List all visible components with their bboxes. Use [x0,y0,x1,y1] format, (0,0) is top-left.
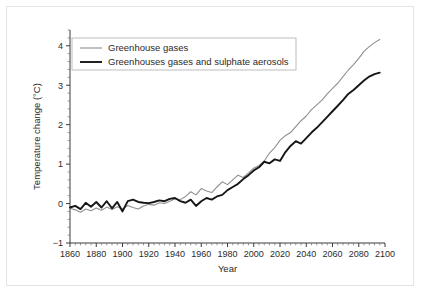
x-tick-label: 2060 [322,249,342,259]
y-axis-tick-labels: −101234 [53,41,63,248]
y-tick-label: 3 [58,81,63,91]
x-tick-label: 1960 [191,249,211,259]
x-axis-tick-labels: 1860188019001920194019601980200020202040… [60,249,395,259]
chart-legend: Greenhouse gasesGreenhouses gases and su… [72,38,296,70]
x-tick-label: 2100 [375,249,395,259]
temperature-change-line-chart: −101234 Temperature change (°C) 18601880… [0,0,422,294]
y-tick-label: 4 [58,41,63,51]
x-tick-label: 1880 [86,249,106,259]
x-tick-label: 2020 [270,249,290,259]
x-tick-label: 1920 [139,249,159,259]
legend-label-1: Greenhouse gases [108,42,189,53]
x-tick-label: 2080 [349,249,369,259]
y-tick-label: 0 [58,199,63,209]
x-tick-label: 2040 [296,249,316,259]
y-axis-major-ticks [66,46,70,243]
y-tick-label: −1 [53,238,63,248]
series-line-2 [70,73,380,212]
x-tick-label: 1860 [60,249,80,259]
x-tick-label: 1940 [165,249,185,259]
x-tick-label: 1980 [217,249,237,259]
y-tick-label: 1 [58,159,63,169]
y-axis-title: Temperature change (°C) [31,83,42,190]
x-tick-label: 2000 [244,249,264,259]
chart-page: −101234 Temperature change (°C) 18601880… [0,0,422,294]
x-axis-title: Year [218,263,237,274]
x-axis-group: 1860188019001920194019601980200020202040… [60,243,395,274]
legend-label-2: Greenhouses gases and sulphate aerosols [108,56,289,67]
y-axis-group: −101234 Temperature change (°C) [31,30,70,248]
y-tick-label: 2 [58,120,63,130]
x-tick-label: 1900 [112,249,132,259]
